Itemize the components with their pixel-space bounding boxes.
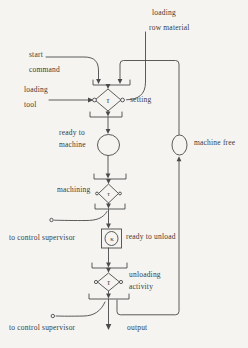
label-machine-free: machine free [194, 138, 235, 147]
machining-left-pin [96, 192, 99, 195]
arrowhead-into-machining-start-bar [106, 174, 111, 179]
output-arrowhead [106, 324, 112, 330]
setting-right-pin [121, 98, 125, 102]
arrowhead-into-ready-place [106, 129, 111, 134]
unloading-right-pin [119, 280, 122, 283]
label-ready-to-machine-line2: machine [59, 140, 86, 149]
label-unloading-line2: activity [129, 282, 153, 291]
to-supervisor-upper-line [55, 212, 108, 221]
label-start-command-line1: start [29, 50, 43, 59]
kappa-symbol: κ [110, 235, 114, 243]
arrowhead-into-unloading-end-bar [106, 294, 111, 299]
arrowhead-into-setting-end-bar [106, 112, 111, 117]
ready-to-machine-place-circle [98, 135, 120, 156]
arrowhead-into-setting-diamond [106, 84, 111, 89]
arrowhead-into-machining-diamond [106, 179, 111, 184]
label-ready-to-unload: ready to unload [126, 232, 176, 241]
arrowhead-into-machine-free [177, 156, 182, 161]
raw-material-line [127, 32, 146, 100]
to-supervisor-lower-line [56, 302, 105, 316]
setting-end-transition-bar [90, 112, 122, 117]
unloading-left-pin [94, 280, 97, 283]
label-machining: machining [57, 185, 90, 194]
label-loading-raw-line1: loading [152, 8, 176, 17]
arrowhead-into-unload-node [106, 224, 111, 229]
machine-free-place-circle [172, 135, 187, 155]
machine-free-loop-arrowhead [118, 79, 123, 84]
label-loading-tool-line1: loading [24, 85, 48, 94]
label-start-command-line2: command [29, 65, 60, 74]
label-setting: setting [130, 95, 151, 104]
label-to-control-supervisor-lower: to control supervisor [9, 323, 75, 332]
arrowhead-into-unloading-diamond [106, 268, 111, 273]
label-output: output [127, 323, 147, 332]
label-loading-tool-line2: tool [24, 100, 36, 109]
machining-right-pin [119, 192, 122, 195]
arrowhead-into-machining-end-bar [106, 204, 111, 209]
label-loading-raw-line2: row material [149, 23, 190, 32]
machining-start-transition-bar [94, 174, 126, 179]
label-to-control-supervisor-upper: to control supervisor [9, 233, 75, 242]
start-command-arrowhead [96, 79, 101, 84]
diagram-canvas: κ τ τ τ loading row material start comma… [0, 0, 248, 348]
label-unloading-line1: unloading [129, 270, 161, 279]
label-ready-to-machine-line1: ready to [59, 128, 85, 137]
unloading-tau-symbol: τ [107, 278, 110, 287]
to-supervisor-lower-terminal [51, 314, 54, 317]
to-supervisor-upper-terminal [50, 218, 53, 221]
arrowhead-into-unloading-start-bar [106, 263, 111, 268]
setting-left-pin [93, 98, 97, 102]
